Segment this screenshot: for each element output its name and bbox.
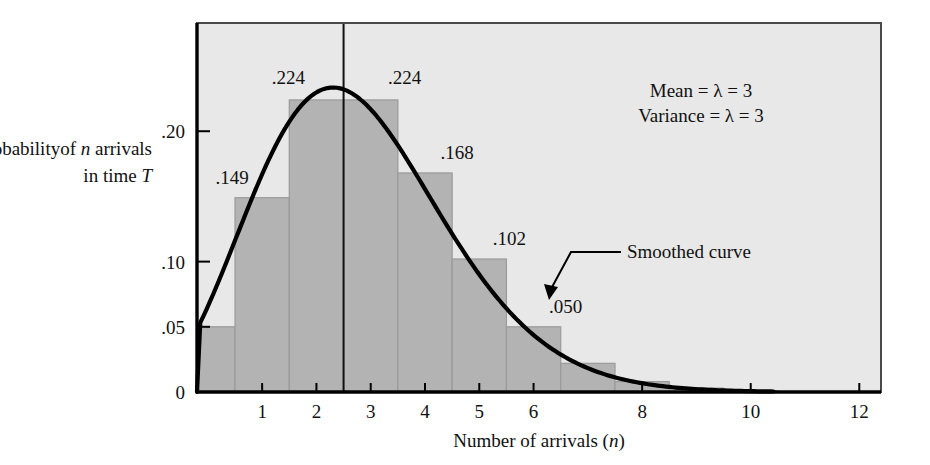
bar-value-label: .168 (440, 142, 473, 163)
svg-text:in time T: in time T (83, 165, 153, 186)
ylabel-line1-part1: Probability (0, 138, 61, 159)
x-tick-label: 8 (637, 401, 647, 422)
ylabel-line1-part3: arrivals (90, 138, 152, 159)
y-axis-tick-labels: 0.05.10.20 (161, 121, 185, 403)
x-tick-label: 1 (257, 401, 267, 422)
histogram-bar (398, 173, 452, 392)
ylabel-line1-n: n (81, 138, 91, 159)
variance-annotation: Variance = λ = 3 (638, 105, 764, 126)
x-tick-label: 4 (420, 401, 430, 422)
bar-value-label: .224 (388, 67, 422, 88)
x-axis-title: Number of arrivals (n) (453, 430, 624, 452)
bar-value-label: .224 (272, 67, 306, 88)
ylabel-line2-T: T (141, 165, 153, 186)
x-axis-tick-labels: 12345681012 (257, 401, 868, 422)
bar-value-label: .050 (549, 296, 582, 317)
x-tick-label: 12 (850, 401, 869, 422)
bar-value-label: .102 (493, 228, 526, 249)
xlabel-part2: ) (618, 430, 624, 452)
histogram-bar (289, 100, 343, 392)
smoothed-curve-annotation: Smoothed curve (627, 241, 751, 262)
poisson-distribution-figure: 12345681012 0.05.10.20 .149.224.224.168.… (0, 0, 930, 465)
svg-text:Probabilityof n arrivals: Probabilityof n arrivals (0, 138, 152, 159)
histogram-bar (235, 198, 289, 392)
y-tick-label: 0 (176, 382, 186, 403)
y-tick-label: .05 (161, 317, 185, 338)
y-tick-label: .10 (161, 252, 185, 273)
x-tick-label: 5 (475, 401, 485, 422)
y-tick-label: .20 (161, 121, 185, 142)
x-tick-label: 10 (741, 401, 760, 422)
ylabel-line1-part2: of (60, 138, 81, 159)
x-tick-label: 3 (366, 401, 376, 422)
x-tick-label: 2 (312, 401, 322, 422)
histogram-bar (344, 100, 398, 392)
bar-value-label: .149 (216, 167, 249, 188)
histogram-bar (197, 327, 235, 392)
xlabel-part1: Number of arrivals ( (453, 430, 609, 452)
histogram-bar (452, 259, 506, 392)
ylabel-line2-part1: in time (83, 165, 141, 186)
x-tick-label: 6 (529, 401, 539, 422)
mean-annotation: Mean = λ = 3 (650, 80, 752, 101)
chart-svg: 12345681012 0.05.10.20 .149.224.224.168.… (0, 0, 930, 465)
xlabel-n: n (609, 430, 619, 451)
y-axis-title: Probabilityof n arrivals in time T (0, 138, 153, 186)
